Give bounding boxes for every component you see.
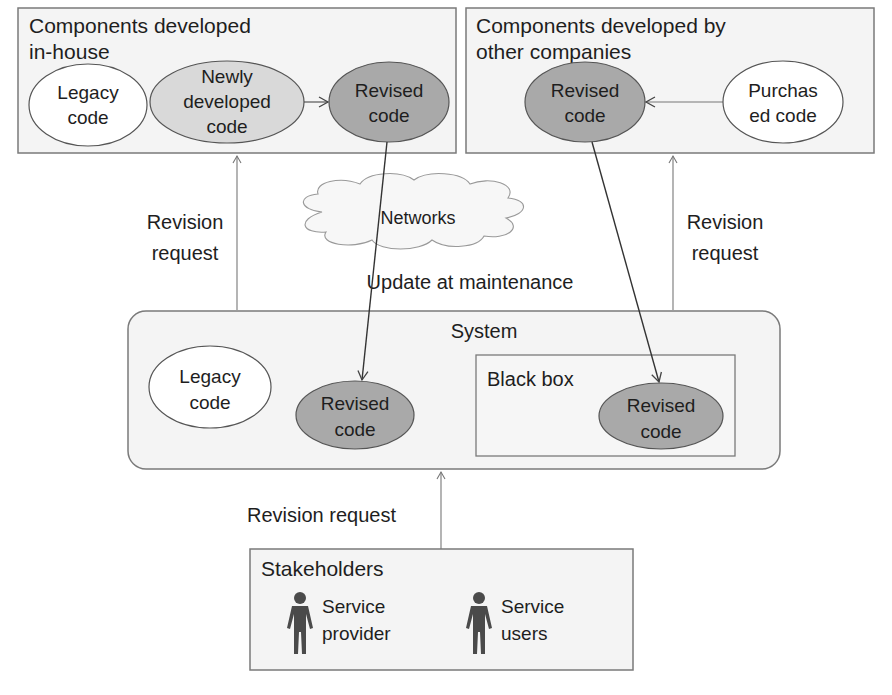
svg-text:code: code bbox=[334, 419, 375, 440]
bottom-revision-request-label: Revision request bbox=[247, 504, 396, 526]
svg-text:code: code bbox=[67, 107, 108, 128]
svg-text:Revised: Revised bbox=[321, 393, 390, 414]
svg-text:code: code bbox=[640, 421, 681, 442]
purchased-code-node: Purchas ed code bbox=[723, 61, 843, 143]
revised-code-node-system: Revised code bbox=[296, 381, 414, 449]
black-box-title: Black box bbox=[487, 368, 574, 390]
networks-cloud: Networks bbox=[303, 174, 523, 249]
svg-text:code: code bbox=[206, 116, 247, 137]
newly-developed-code-node: Newly developed code bbox=[150, 61, 304, 143]
svg-text:Purchas: Purchas bbox=[748, 80, 818, 101]
svg-text:developed: developed bbox=[183, 91, 271, 112]
right-revision-request-line1: Revision bbox=[687, 211, 764, 233]
update-at-maintenance-label: Update at maintenance bbox=[367, 271, 574, 293]
revised-code-node-inhouse: Revised code bbox=[329, 62, 449, 142]
svg-text:Revised: Revised bbox=[551, 80, 620, 101]
system-title: System bbox=[451, 320, 518, 342]
svg-text:Newly: Newly bbox=[201, 66, 253, 87]
revised-code-node-other: Revised code bbox=[525, 62, 645, 142]
other-companies-title-line2: other companies bbox=[476, 40, 631, 63]
other-companies-title-line1: Components developed by bbox=[476, 14, 726, 37]
service-provider-line1: Service bbox=[322, 596, 385, 617]
left-revision-request-line2: request bbox=[152, 242, 219, 264]
svg-text:ed code: ed code bbox=[749, 105, 817, 126]
right-revision-request-line2: request bbox=[692, 242, 759, 264]
legacy-code-node-system: Legacy code bbox=[149, 346, 271, 428]
service-provider-line2: provider bbox=[322, 623, 391, 644]
in-house-title-line1: Components developed bbox=[29, 14, 251, 37]
stakeholders-title: Stakeholders bbox=[261, 557, 384, 580]
svg-text:code: code bbox=[564, 105, 605, 126]
service-users-line1: Service bbox=[501, 596, 564, 617]
svg-text:code: code bbox=[189, 392, 230, 413]
svg-text:Revised: Revised bbox=[355, 80, 424, 101]
in-house-title-line2: in-house bbox=[29, 40, 110, 63]
revised-code-node-blackbox: Revised code bbox=[599, 383, 723, 449]
networks-label: Networks bbox=[380, 208, 455, 228]
svg-text:Revised: Revised bbox=[627, 395, 696, 416]
svg-text:code: code bbox=[368, 105, 409, 126]
left-revision-request-line1: Revision bbox=[147, 211, 224, 233]
legacy-code-node-inhouse: Legacy code bbox=[29, 64, 147, 146]
service-users-line2: users bbox=[501, 623, 547, 644]
diagram-canvas: Components developed in-house Legacy cod… bbox=[0, 0, 892, 695]
svg-text:Legacy: Legacy bbox=[179, 366, 241, 387]
svg-text:Legacy: Legacy bbox=[57, 82, 119, 103]
